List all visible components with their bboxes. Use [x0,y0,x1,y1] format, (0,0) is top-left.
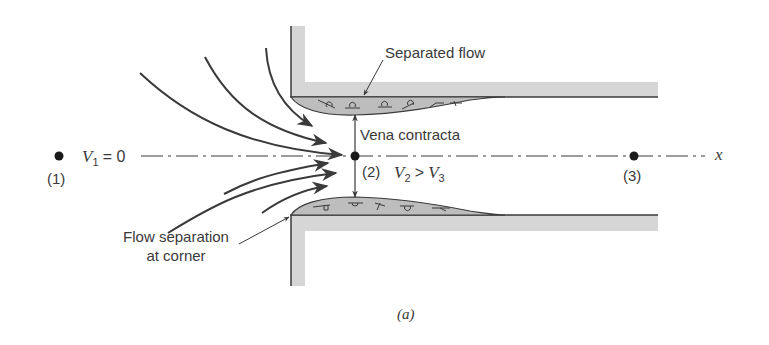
point-1-label: (1) [47,171,65,186]
velocity-3-subscript: 3 [439,172,445,184]
velocity-3-symbol: V [428,163,438,182]
velocity-2-relation: > [415,164,424,181]
flow-separation-line-2: at corner [110,246,242,265]
point-2-dot [351,152,360,161]
flow-separation-label: Flow separation at corner [110,227,242,265]
lower-wall [291,215,658,286]
flow-separation-line-1: Flow separation [110,227,242,246]
velocity-1-label: V1 = 0 [82,148,125,165]
point-3-dot [630,152,639,161]
flow-diagram: Separated flow Vena contracta (1) V1 = 0… [0,0,769,345]
corner-separation-leader [239,217,289,244]
upper-separation-bubble [291,97,505,115]
point-1-dot [55,152,64,161]
point-3-label: (3) [623,168,641,183]
velocity-1-relation: = 0 [103,148,126,165]
figure-caption: (a) [397,307,415,322]
separated-flow-label: Separated flow [385,45,485,60]
velocity-2-comparison: V2 > V3 [394,164,445,181]
lower-separation-bubble [291,197,505,215]
velocity-1-symbol: V [82,147,92,166]
upper-wall [291,26,658,97]
velocity-1-subscript: 1 [92,156,98,168]
point-2-label: (2) [362,164,380,179]
vena-contracta-label: Vena contracta [360,127,460,142]
velocity-2-subscript: 2 [404,172,410,184]
velocity-2-symbol: V [394,163,404,182]
axis-x-label: x [715,146,723,163]
